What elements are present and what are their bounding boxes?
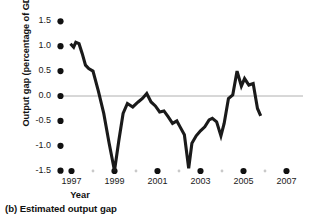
y-tick-label: -1.0 bbox=[25, 140, 51, 150]
y-tick-dot bbox=[57, 168, 63, 174]
x-tick-label: 1997 bbox=[55, 176, 89, 186]
x-tick-label: 2005 bbox=[227, 176, 261, 186]
x-tick-label: 2003 bbox=[184, 176, 218, 186]
y-tick-dot bbox=[57, 93, 63, 99]
y-tick-dot bbox=[57, 118, 63, 124]
x-minor-tick-dot bbox=[264, 170, 267, 173]
x-tick-label: 2007 bbox=[270, 176, 304, 186]
x-tick-dot bbox=[240, 168, 246, 174]
output-gap-line-chart bbox=[0, 0, 318, 220]
x-minor-tick-dot bbox=[135, 170, 138, 173]
x-axis-minor-tick-dots bbox=[92, 170, 267, 173]
x-tick-label: 2001 bbox=[141, 176, 175, 186]
x-minor-tick-dot bbox=[221, 170, 224, 173]
x-tick-dot bbox=[283, 168, 289, 174]
series-line-estimated-output-gap bbox=[70, 42, 260, 170]
x-axis-title: Year bbox=[52, 190, 108, 200]
data-series-group bbox=[70, 42, 260, 170]
x-tick-label: 1999 bbox=[98, 176, 132, 186]
x-minor-tick-dot bbox=[92, 170, 95, 173]
x-minor-tick-dot bbox=[178, 170, 181, 173]
y-tick-dot bbox=[57, 18, 63, 24]
x-tick-dot bbox=[154, 168, 160, 174]
y-tick-dot bbox=[57, 43, 63, 49]
y-tick-dot bbox=[57, 143, 63, 149]
y-tick-dot bbox=[57, 68, 63, 74]
y-tick-label: -1.5 bbox=[25, 165, 51, 175]
x-tick-dot bbox=[197, 168, 203, 174]
x-tick-dot bbox=[68, 168, 74, 174]
figure-caption: (b) Estimated output gap bbox=[5, 203, 117, 214]
y-axis-title: Output gap (percentage of GDP) bbox=[21, 0, 31, 137]
y-axis-tick-dots bbox=[57, 18, 63, 174]
figure-container: 1.51.00.50.0-0.5-1.0-1.5 199719992001200… bbox=[0, 0, 318, 220]
